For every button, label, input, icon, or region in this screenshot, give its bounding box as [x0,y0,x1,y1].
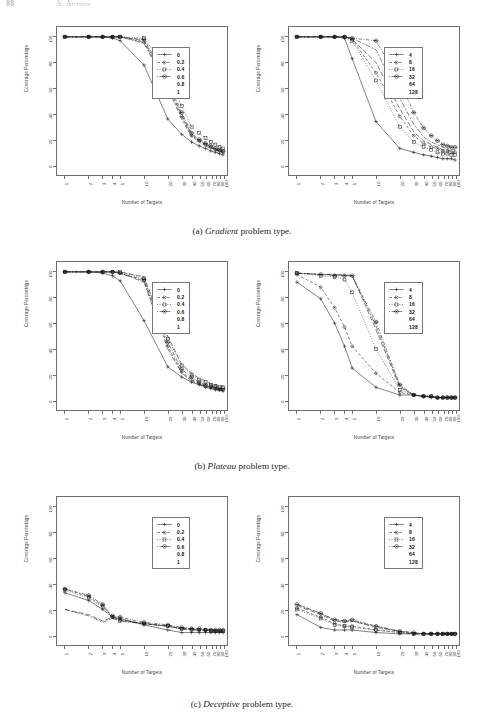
x-tick-mark [120,646,121,649]
caption-a: (a) Gradient problem type. [0,226,484,236]
y-tick-mark [285,88,288,89]
x-tick-mark [424,411,425,414]
legend-label: 8 [409,294,412,300]
x-tick-mark [452,411,453,414]
x-tick-mark [432,411,433,414]
x-tick-label: 50 [432,177,437,191]
figure-row-plateau: 10080604020012345102030405060708090100Co… [0,249,484,484]
x-tick-mark [206,411,207,414]
legend-item: 32 [388,73,418,80]
x-tick-label: 30 [414,412,419,426]
x-tick-label: 40 [424,412,429,426]
legend-marker-icon [388,51,405,58]
x-tick-mark [414,646,415,649]
x-tick-mark [102,646,103,649]
x-tick-mark [448,176,449,179]
x-tick-label: 1 [64,412,69,426]
y-tick-label: 100 [48,271,53,287]
x-tick-mark [192,176,193,179]
x-tick-mark [102,411,103,414]
chart-legend: 00.20.40.60.81 [152,47,190,99]
legend-label: 8 [409,59,412,65]
legend-marker-icon [156,73,173,80]
legend-marker-icon [156,316,173,323]
legend-item: 0 [156,51,185,58]
legend-marker-icon [388,536,405,543]
y-tick-mark [53,62,56,63]
legend-item: 128 [388,88,418,95]
x-tick-mark [334,411,335,414]
x-tick-label: 3 [334,647,339,661]
x-tick-mark [64,411,65,414]
x-tick-mark [452,646,453,649]
y-tick-mark [53,506,56,507]
y-tick-label: 60 [48,558,53,574]
legend-marker-icon [388,551,405,558]
x-tick-mark [376,411,377,414]
legend-label: 0 [177,287,180,293]
legend-item: 64 [388,81,418,88]
x-tick-mark [296,646,297,649]
legend-label: 4 [409,287,412,293]
y-tick-label: 80 [48,62,53,78]
x-tick-mark [102,176,103,179]
x-tick-mark [456,646,457,649]
legend-item: 0.8 [156,81,185,88]
legend-label: 64 [409,81,415,87]
x-tick-mark [112,411,113,414]
x-tick-mark [296,411,297,414]
y-tick-label: 0 [280,166,285,182]
y-tick-mark [53,610,56,611]
x-tick-label: 50 [432,647,437,661]
x-tick-mark [320,176,321,179]
x-tick-label: 30 [182,177,187,191]
x-tick-mark [456,411,457,414]
legend-label: 0.6 [177,309,185,315]
legend-marker-icon [388,73,405,80]
legend-label: 0.2 [177,294,185,300]
legend-item: 32 [388,543,418,550]
y-tick-label: 100 [48,36,53,52]
legend-marker-icon [156,323,173,330]
x-tick-mark [376,176,377,179]
legend-label: 16 [409,301,415,307]
chart-legend: 48163264128 [384,47,423,99]
y-tick-mark [285,297,288,298]
legend-marker-icon [156,558,173,565]
legend-marker-icon [388,316,405,323]
legend-item: 1 [156,88,185,95]
x-tick-label: 30 [182,647,187,661]
x-tick-mark [448,411,449,414]
x-tick-mark [352,411,353,414]
caption-b: (b) Plateau problem type. [0,461,484,471]
legend-item: 0.2 [156,528,185,535]
x-tick-mark [352,646,353,649]
y-tick-mark [53,140,56,141]
x-tick-mark [334,176,335,179]
x-tick-label: 30 [182,412,187,426]
x-tick-label: 20 [400,647,405,661]
legend-marker-icon [388,88,405,95]
legend-item: 0.6 [156,543,185,550]
x-tick-mark [64,176,65,179]
y-tick-label: 0 [280,401,285,417]
legend-label: 0.4 [177,301,185,307]
legend-marker-icon [156,286,173,293]
legend-marker-icon [156,51,173,58]
x-tick-label: 3 [334,412,339,426]
figure-page: 88 A. Author 100806040200123451020304050… [0,0,484,724]
x-tick-mark [206,176,207,179]
x-tick-label: 5 [352,412,357,426]
legend-marker-icon [388,81,405,88]
y-tick-mark [285,401,288,402]
x-tick-label: 4 [344,412,349,426]
legend-item: 0.4 [156,536,185,543]
x-tick-mark [88,411,89,414]
y-tick-label: 60 [280,558,285,574]
y-tick-mark [53,636,56,637]
x-tick-mark [212,646,213,649]
x-axis-label: Number of Targets [288,435,460,440]
y-tick-label: 40 [280,114,285,130]
legend-label: 64 [409,551,415,557]
legend-item: 1 [156,323,185,330]
